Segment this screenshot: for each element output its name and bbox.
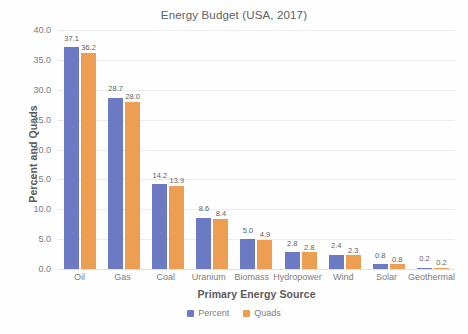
bar-value-label: 37.1 [64, 35, 79, 43]
bar-value-label: 0.8 [392, 256, 402, 264]
x-axis-tick-labels: OilGasCoalUraniumBiomassHydropowerWindSo… [58, 272, 455, 282]
bar-group: 28.728.0 [102, 30, 146, 269]
bar[interactable]: 28.7 [108, 98, 123, 269]
bar-value-label: 36.2 [81, 44, 96, 52]
x-axis-tick-label: Hydropower [273, 272, 322, 282]
y-axis-tick-label: 15.0 [33, 174, 51, 184]
x-axis-tick-label: Coal [144, 272, 187, 282]
bar-group: 0.20.2 [411, 30, 455, 269]
plot-area: 40.035.030.025.020.015.010.05.00.0 37.13… [58, 30, 455, 269]
bar-value-label: 28.0 [125, 93, 140, 101]
bar-value-label: 14.2 [152, 172, 167, 180]
bar[interactable]: 2.3 [346, 255, 361, 269]
y-axis-tick-label: 0.0 [38, 264, 51, 274]
bar-value-label: 2.4 [331, 242, 341, 250]
bar[interactable]: 14.2 [152, 184, 167, 269]
bar[interactable]: 0.2 [434, 268, 449, 270]
bar[interactable]: 8.6 [196, 218, 211, 269]
x-axis-tick-label: Oil [58, 272, 101, 282]
y-axis-tick-label: 25.0 [33, 115, 51, 125]
bar[interactable]: 2.4 [329, 255, 344, 269]
y-axis-tick-label: 30.0 [33, 85, 51, 95]
chart-title: Energy Budget (USA, 2017) [0, 9, 468, 21]
bar-group: 14.213.9 [146, 30, 190, 269]
bar-value-label: 2.8 [304, 244, 314, 252]
bar-value-label: 5.0 [243, 227, 253, 235]
x-axis-tick-label: Uranium [187, 272, 230, 282]
y-axis-tick-label: 20.0 [33, 145, 51, 155]
bar-group: 2.42.3 [323, 30, 367, 269]
bar[interactable]: 0.8 [390, 264, 405, 269]
x-axis-tick-label: Solar [365, 272, 408, 282]
bar-value-label: 2.3 [348, 247, 358, 255]
x-axis-title: Primary Energy Source [58, 288, 455, 300]
legend-item[interactable]: Quads [243, 308, 281, 318]
chart-legend: PercentQuads [0, 308, 468, 318]
bar-value-label: 2.8 [287, 240, 297, 248]
bar-value-label: 8.4 [216, 210, 226, 218]
y-axis-tick-label: 5.0 [38, 234, 51, 244]
gridline: 0.0 [58, 269, 455, 270]
bar-chart: Energy Budget (USA, 2017) Percent and Qu… [0, 0, 468, 334]
bar-groups: 37.136.228.728.014.213.98.68.45.04.92.82… [58, 30, 455, 269]
bar[interactable]: 2.8 [285, 252, 300, 269]
bar-group: 8.68.4 [190, 30, 234, 269]
bar[interactable]: 5.0 [240, 239, 255, 269]
bar-value-label: 0.2 [419, 255, 429, 263]
y-axis-tick-label: 10.0 [33, 204, 51, 214]
bar-value-label: 4.9 [260, 231, 270, 239]
legend-swatch-icon [187, 310, 194, 317]
bar-value-label: 8.6 [199, 205, 209, 213]
legend-item[interactable]: Percent [187, 308, 229, 318]
x-axis-tick-label: Biomass [230, 272, 273, 282]
x-axis-tick-label: Gas [101, 272, 144, 282]
x-axis-tick-label: Geothermal [408, 272, 455, 282]
bar[interactable]: 2.8 [302, 252, 317, 269]
legend-label: Quads [254, 308, 281, 318]
bar-value-label: 28.7 [108, 85, 123, 93]
legend-label: Percent [198, 308, 229, 318]
bar-group: 5.04.9 [234, 30, 278, 269]
bar[interactable]: 8.4 [213, 219, 228, 269]
bar[interactable]: 4.9 [257, 240, 272, 269]
bar-group: 37.136.2 [58, 30, 102, 269]
y-axis-tick-label: 35.0 [33, 55, 51, 65]
bar-value-label: 13.9 [169, 177, 184, 185]
legend-swatch-icon [243, 310, 250, 317]
x-axis-tick-label: Wind [322, 272, 365, 282]
y-axis-tick-label: 40.0 [33, 25, 51, 35]
bar[interactable]: 37.1 [64, 47, 79, 269]
bar[interactable]: 36.2 [81, 53, 96, 269]
bar[interactable]: 28.0 [125, 102, 140, 269]
bar[interactable]: 0.2 [417, 268, 432, 270]
bar[interactable]: 0.8 [373, 264, 388, 269]
bar[interactable]: 13.9 [169, 186, 184, 269]
bar-value-label: 0.2 [436, 259, 446, 267]
bar-group: 2.82.8 [279, 30, 323, 269]
bar-group: 0.80.8 [367, 30, 411, 269]
bar-value-label: 0.8 [375, 252, 385, 260]
